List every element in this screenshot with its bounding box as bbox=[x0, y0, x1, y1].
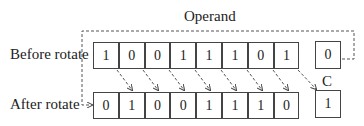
after-bit-4: 0 bbox=[170, 92, 196, 119]
after-bit-1: 1 bbox=[248, 92, 274, 119]
before-bit-3: 1 bbox=[196, 42, 222, 69]
before-rotate-label: Before rotate bbox=[10, 46, 89, 63]
after-bit-7: 0 bbox=[93, 92, 119, 119]
after-bit-3: 1 bbox=[196, 92, 222, 119]
before-bit-1: 0 bbox=[248, 42, 274, 69]
after-bit-2: 1 bbox=[222, 92, 248, 119]
before-bit-7: 1 bbox=[93, 42, 119, 69]
before-carry-box: 0 bbox=[315, 41, 341, 69]
before-bit-5: 0 bbox=[145, 42, 171, 69]
before-bit-0: 1 bbox=[274, 42, 300, 69]
after-rotate-label: After rotate bbox=[10, 96, 80, 113]
after-bit-5: 0 bbox=[145, 92, 171, 119]
shift-arrows bbox=[117, 70, 316, 90]
carry-label: C bbox=[322, 73, 332, 90]
after-bit-0: 0 bbox=[274, 92, 300, 119]
after-carry-box: 1 bbox=[315, 90, 341, 118]
before-bit-2: 1 bbox=[222, 42, 248, 69]
after-bit-6: 1 bbox=[119, 92, 145, 119]
before-bit-6: 0 bbox=[119, 42, 145, 69]
before-bit-4: 1 bbox=[170, 42, 196, 69]
operand-title: Operand bbox=[184, 8, 236, 25]
